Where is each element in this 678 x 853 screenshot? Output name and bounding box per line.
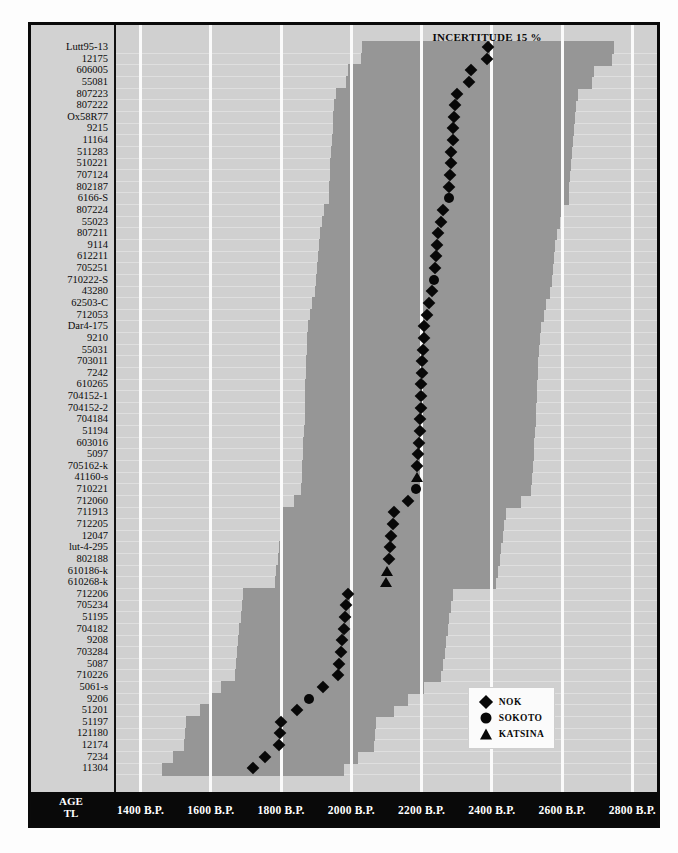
sample-label: Dar4-175 xyxy=(68,321,108,332)
sample-label: 704182 xyxy=(77,624,109,635)
sample-label: 606005 xyxy=(77,65,109,76)
sample-label: 51194 xyxy=(82,426,108,437)
sample-label: 703284 xyxy=(77,647,109,658)
sample-label: 707124 xyxy=(77,170,109,181)
sample-label: 5061-s xyxy=(79,682,108,693)
sample-label: 9208 xyxy=(87,635,108,646)
circle-icon xyxy=(477,711,495,725)
gridline-vertical xyxy=(350,25,353,792)
chart-legend: NOKSOKOTOKATSINA xyxy=(468,687,555,749)
uncertainty-annotation: INCERTITUDE 15 % xyxy=(432,31,542,43)
sample-label: 12047 xyxy=(82,531,108,542)
sample-label: 807211 xyxy=(77,228,108,239)
sample-label: 807223 xyxy=(77,89,109,100)
x-tick-label: 2800 B.P. xyxy=(609,804,656,816)
sample-label: 51201 xyxy=(82,705,108,716)
sample-label: 705251 xyxy=(77,263,109,274)
x-tick-label: 2400 B.P. xyxy=(468,804,515,816)
gridline-vertical xyxy=(490,25,493,792)
diamond-icon xyxy=(477,695,495,709)
sample-label: 11164 xyxy=(83,135,108,146)
x-axis-bar: AGE TL 1400 B.P.1600 B.P.1800 B.P.2000 B… xyxy=(31,792,657,825)
legend-label: KATSINA xyxy=(495,729,544,739)
sample-label: 807224 xyxy=(77,205,109,216)
sample-label: 9210 xyxy=(87,333,108,344)
sample-label: 710226 xyxy=(77,670,109,681)
sample-label: 55081 xyxy=(82,77,108,88)
gridline-vertical xyxy=(631,25,634,792)
legend-label: NOK xyxy=(495,697,522,707)
sample-label: 711913 xyxy=(77,507,108,518)
gridline-vertical xyxy=(280,25,283,792)
data-point-katsina xyxy=(411,472,423,482)
sample-label: 51195 xyxy=(82,612,108,623)
data-point-sokoto xyxy=(429,275,439,285)
legend-item: NOK xyxy=(477,694,544,710)
data-point-katsina xyxy=(381,566,393,576)
data-point-sokoto xyxy=(411,484,421,494)
sample-label: 121180 xyxy=(77,728,108,739)
x-tick-label: 1400 B.P. xyxy=(117,804,164,816)
sample-label: 603016 xyxy=(77,438,109,449)
axis-title: AGE TL xyxy=(35,795,107,819)
sample-label: 610186-k xyxy=(68,566,108,577)
sample-label: 11304 xyxy=(82,763,108,774)
sample-label: 703011 xyxy=(77,356,108,367)
sample-label: 55023 xyxy=(82,217,108,228)
chart-page: Lutt95-131217560600555081807223807222Ox5… xyxy=(0,0,678,853)
data-point-katsina xyxy=(380,577,392,587)
sample-label: Ox58R77 xyxy=(67,112,108,123)
sample-label: 807222 xyxy=(77,100,109,111)
plot-area: INCERTITUDE 15 % NOKSOKOTOKATSINA xyxy=(116,25,657,792)
sample-label: 712060 xyxy=(77,496,109,507)
chart-frame: Lutt95-131217560600555081807223807222Ox5… xyxy=(28,22,660,828)
sample-label: 705162-k xyxy=(68,461,108,472)
sample-label: 704152-2 xyxy=(68,403,108,414)
sample-label: 610268-k xyxy=(68,577,108,588)
sample-label: 43280 xyxy=(82,286,108,297)
sample-label: 5097 xyxy=(87,449,108,460)
gridline-vertical xyxy=(209,25,212,792)
sample-label: 51197 xyxy=(82,717,108,728)
sample-label: 510221 xyxy=(77,158,109,169)
sample-label: 62503-C xyxy=(71,298,108,309)
axis-title-line-2: TL xyxy=(35,807,107,819)
sample-label-column: Lutt95-131217560600555081807223807222Ox5… xyxy=(31,25,114,825)
sample-label: 9215 xyxy=(87,123,108,134)
sample-label: 41160-s xyxy=(75,472,108,483)
sample-label: 5087 xyxy=(87,659,108,670)
sample-label: 802187 xyxy=(77,182,109,193)
legend-label: SOKOTO xyxy=(495,713,542,723)
sample-label: 55031 xyxy=(82,345,108,356)
sample-label: 612211 xyxy=(77,251,108,262)
sample-label: 7242 xyxy=(87,368,108,379)
triangle-icon xyxy=(477,727,495,741)
sample-label: 802188 xyxy=(77,554,109,565)
sample-label: lut-4-295 xyxy=(69,542,108,553)
sample-label: 712053 xyxy=(77,310,109,321)
data-point-sokoto xyxy=(444,193,454,203)
sample-label: 511283 xyxy=(77,147,108,158)
legend-item: KATSINA xyxy=(477,726,544,742)
x-tick-label: 1800 B.P. xyxy=(258,804,305,816)
sample-label: 6166-S xyxy=(78,193,108,204)
axis-title-line-1: AGE xyxy=(35,795,107,807)
data-point-sokoto xyxy=(304,694,314,704)
sample-label: 704152-1 xyxy=(68,391,108,402)
sample-label: 712206 xyxy=(77,589,109,600)
sample-label: 12174 xyxy=(82,740,108,751)
sample-label: 705234 xyxy=(77,600,109,611)
sample-label: 610265 xyxy=(77,379,109,390)
sample-label: 704184 xyxy=(77,414,109,425)
sample-label: 9114 xyxy=(87,240,108,251)
x-tick-label: 2200 B.P. xyxy=(398,804,445,816)
sample-label: 12175 xyxy=(82,54,108,65)
legend-item: SOKOTO xyxy=(477,710,544,726)
sample-label: 712205 xyxy=(77,519,109,530)
x-tick-label: 2600 B.P. xyxy=(539,804,586,816)
sample-label: 7234 xyxy=(87,752,108,763)
sample-label: 9206 xyxy=(87,694,108,705)
sample-label: 710221 xyxy=(77,484,109,495)
sample-label: Lutt95-13 xyxy=(66,42,108,53)
sample-label: 710222-S xyxy=(67,275,108,286)
